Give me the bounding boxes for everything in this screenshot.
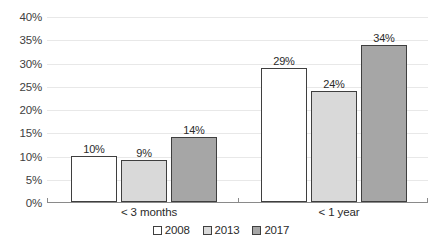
- y-tick-label: 20%: [20, 104, 42, 116]
- bar-slot: 10%: [69, 17, 119, 202]
- bar-value-label: 10%: [83, 143, 104, 155]
- bar-group: 29% 24% 34%: [259, 17, 419, 202]
- axis-tick: [427, 198, 428, 203]
- chart-legend: 2008 2013 2017: [0, 224, 442, 236]
- y-tick-label: 10%: [20, 151, 42, 163]
- bar-chart: 40% 35% 30% 25% 20% 15% 10% 5% 0% 10%: [0, 0, 442, 245]
- y-tick-label: 25%: [20, 81, 42, 93]
- bar-2008[interactable]: 29%: [261, 68, 307, 202]
- y-tick-label: 0%: [26, 197, 42, 209]
- legend-label: 2017: [264, 224, 289, 236]
- bar-slot: 14%: [169, 17, 219, 202]
- bar-value-label: 14%: [183, 124, 204, 136]
- y-tick-label: 30%: [20, 58, 42, 70]
- legend-label: 2008: [165, 224, 190, 236]
- bar-group: 10% 9% 14%: [69, 17, 229, 202]
- legend-swatch-icon: [153, 226, 162, 235]
- y-axis: 40% 35% 30% 25% 20% 15% 10% 5% 0%: [0, 17, 42, 203]
- bar-slot: 24%: [309, 17, 359, 202]
- plot-area: 10% 9% 14% 29% 2: [47, 17, 428, 203]
- legend-item-2017[interactable]: 2017: [252, 224, 289, 236]
- bar-2013[interactable]: 9%: [121, 160, 167, 202]
- y-tick-label: 5%: [26, 174, 42, 186]
- axis-tick: [47, 198, 48, 203]
- legend-label: 2013: [215, 224, 240, 236]
- bar-2017[interactable]: 34%: [361, 45, 407, 202]
- axis-tick: [238, 198, 239, 203]
- bar-value-label: 34%: [373, 32, 394, 44]
- bar-value-label: 29%: [273, 55, 294, 67]
- category-label-0: < 3 months: [121, 206, 177, 218]
- legend-swatch-icon: [203, 226, 212, 235]
- y-tick-label: 35%: [20, 34, 42, 46]
- legend-item-2008[interactable]: 2008: [153, 224, 190, 236]
- bar-2008[interactable]: 10%: [71, 156, 117, 202]
- legend-swatch-icon: [252, 226, 261, 235]
- category-label-1: < 1 year: [318, 206, 359, 218]
- bar-slot: 9%: [119, 17, 169, 202]
- legend-item-2013[interactable]: 2013: [203, 224, 240, 236]
- y-tick-label: 40%: [20, 11, 42, 23]
- bar-2013[interactable]: 24%: [311, 91, 357, 202]
- y-tick-label: 15%: [20, 127, 42, 139]
- bar-slot: 29%: [259, 17, 309, 202]
- bar-slot: 34%: [359, 17, 409, 202]
- bar-value-label: 24%: [323, 78, 344, 90]
- x-axis-labels: < 3 months < 1 year: [47, 206, 428, 222]
- bar-value-label: 9%: [136, 147, 152, 159]
- bar-2017[interactable]: 14%: [171, 137, 217, 202]
